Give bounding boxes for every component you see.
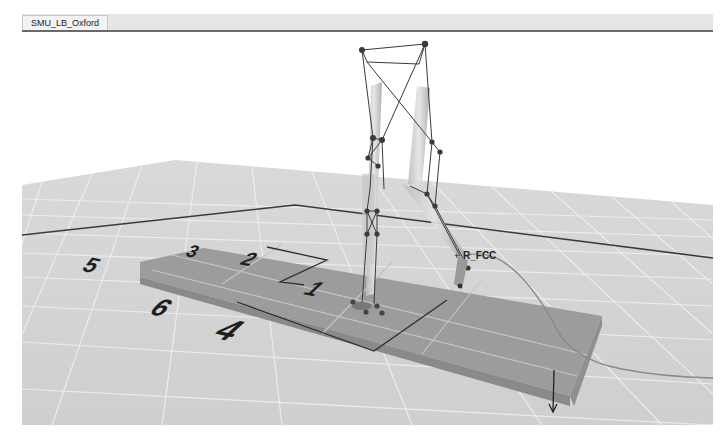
svg-text:+: + — [454, 251, 459, 261]
tab-smu-lb-oxford[interactable]: SMU_LB_Oxford — [22, 15, 108, 31]
scene-canvas: 3 5 2 6 1 4 — [22, 34, 713, 425]
document-tab-bar: SMU_LB_Oxford — [22, 14, 713, 32]
marker-label: R_FCC — [463, 250, 496, 261]
tab-divider — [22, 30, 713, 32]
tab-strip — [22, 14, 713, 30]
3d-viewport[interactable]: 3 5 2 6 1 4 — [22, 34, 713, 425]
